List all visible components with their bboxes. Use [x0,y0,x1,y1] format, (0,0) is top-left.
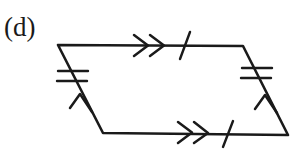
bottom-edge-arrow-marks [178,122,208,143]
bottom-edge-arrowhead-2 [194,122,208,143]
figure-container: (d) [0,0,306,161]
parallelogram-diagram [0,0,306,161]
bottom-edge-arrowhead-1 [178,122,192,143]
parallelogram-outline [58,45,288,135]
